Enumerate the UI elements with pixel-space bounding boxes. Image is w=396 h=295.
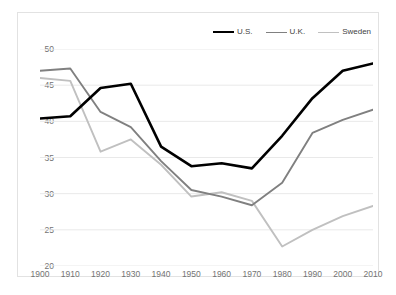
x-tick-label: 2010 xyxy=(355,269,391,279)
chart-figure: U.S. U.K. Sweden 50454035302520 19001910… xyxy=(17,12,379,277)
legend-swatch-us xyxy=(213,31,234,33)
series-line-sweden xyxy=(40,78,373,247)
legend-item-us[interactable]: U.S. xyxy=(213,28,253,36)
legend-label-sweden: Sweden xyxy=(342,28,371,36)
legend-label-uk: U.K. xyxy=(290,28,306,36)
series-line-us xyxy=(40,63,373,168)
legend-item-sweden[interactable]: Sweden xyxy=(318,28,371,36)
legend-swatch-uk xyxy=(266,32,287,33)
x-axis: 1900191019201930194019501960197019801990… xyxy=(40,269,373,283)
legend-label-us: U.S. xyxy=(237,28,253,36)
line-chart-svg xyxy=(40,49,373,266)
legend-item-uk[interactable]: U.K. xyxy=(266,28,306,36)
plot-area xyxy=(40,49,373,266)
chart-legend: U.S. U.K. Sweden xyxy=(213,25,371,39)
legend-swatch-sweden xyxy=(318,32,339,33)
